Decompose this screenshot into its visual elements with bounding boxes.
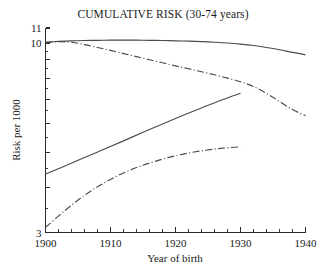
chart-canvas: CUMULATIVE RISK (30-74 years) Risk per 1…	[0, 0, 327, 267]
y-axis-ticks	[46, 28, 51, 233]
series-line-upper-dashdot	[46, 42, 306, 116]
x-axis-ticks	[46, 227, 306, 233]
y-axis-title: Risk per 1000	[10, 99, 22, 161]
x-tick-label: 1930	[230, 237, 253, 249]
chart-title: CUMULATIVE RISK (30-74 years)	[77, 8, 248, 21]
series-line-upper-solid	[46, 40, 306, 55]
x-axis-title: Year of birth	[147, 252, 203, 264]
series-line-lower-solid	[46, 93, 241, 174]
x-tick-label: 1920	[165, 237, 188, 249]
y-tick-label: 11	[31, 22, 42, 34]
chart-series-group	[46, 40, 306, 227]
x-tick-label: 1900	[35, 237, 58, 249]
x-tick-label: 1940	[295, 237, 318, 249]
x-tick-label: 1910	[100, 237, 123, 249]
x-axis-tick-labels: 19001910192019301940	[35, 237, 318, 249]
series-line-lower-dashdot	[46, 147, 241, 228]
y-axis-tick-labels: 31011	[31, 22, 43, 239]
chart-figure: CUMULATIVE RISK (30-74 years) Risk per 1…	[0, 0, 327, 267]
y-tick-label: 10	[31, 37, 43, 49]
